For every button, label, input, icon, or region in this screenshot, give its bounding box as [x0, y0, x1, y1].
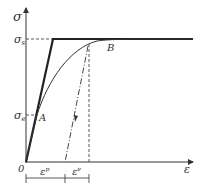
point-a-label: A [38, 112, 46, 123]
elastic-limit-label: σe [14, 109, 26, 123]
ideal-elastic-plastic-line [26, 39, 193, 162]
plastic-strain-label: εp [40, 165, 49, 177]
y-axis-label: σ [13, 9, 23, 24]
stress-strain-diagram: σ σs σe A B 0 ε εp εe [0, 0, 205, 190]
unloading-arrow-icon [74, 115, 78, 122]
point-b-label: B [106, 42, 114, 53]
elastic-strain-label: εe [72, 165, 81, 177]
origin-label: 0 [18, 163, 25, 174]
actual-stress-strain-curve [26, 39, 193, 162]
unloading-line [65, 46, 88, 162]
x-axis-label: ε [184, 163, 190, 176]
yield-stress-label: σs [14, 33, 26, 47]
